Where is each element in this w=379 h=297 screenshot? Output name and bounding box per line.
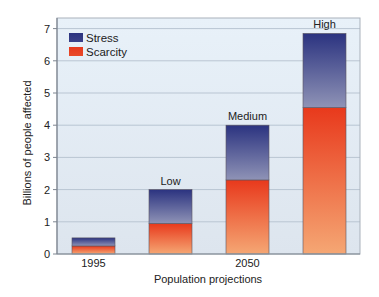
legend-label-scarcity: Scarcity bbox=[86, 46, 127, 58]
bar-scarcity-medium bbox=[226, 180, 269, 254]
legend-label-stress: Stress bbox=[86, 32, 119, 44]
bar-stress-high bbox=[303, 33, 346, 107]
bar-scarcity-low bbox=[149, 223, 192, 254]
x-tick-label: 2050 bbox=[235, 257, 259, 269]
y-tick-label: 1 bbox=[44, 216, 50, 228]
y-axis-ticks: 01234567 bbox=[44, 23, 57, 260]
x-tick-label: 1995 bbox=[81, 257, 105, 269]
x-axis-title: Population projections bbox=[154, 273, 263, 285]
bar-scarcity-high bbox=[303, 107, 346, 254]
y-axis-title: Billions of people affected bbox=[21, 80, 33, 205]
y-tick-label: 0 bbox=[44, 248, 50, 260]
legend-swatch-scarcity bbox=[69, 47, 83, 56]
stacked-bar-chart: LowMediumHigh 01234567 19952050 StressSc… bbox=[0, 0, 379, 297]
bar-label: High bbox=[313, 18, 336, 30]
bar-label: Medium bbox=[228, 110, 267, 122]
bar-label: Low bbox=[160, 175, 180, 187]
x-axis-ticks: 19952050 bbox=[81, 257, 259, 269]
y-tick-label: 5 bbox=[44, 87, 50, 99]
y-tick-label: 4 bbox=[44, 119, 50, 131]
y-tick-label: 2 bbox=[44, 184, 50, 196]
legend-swatch-stress bbox=[69, 33, 83, 42]
bar-stress-low bbox=[149, 190, 192, 224]
y-tick-label: 6 bbox=[44, 55, 50, 67]
y-tick-label: 7 bbox=[44, 23, 50, 35]
bar-stress-medium bbox=[226, 125, 269, 180]
y-tick-label: 3 bbox=[44, 151, 50, 163]
bar-stress-1995 bbox=[72, 238, 115, 246]
bar-scarcity-1995 bbox=[72, 246, 115, 254]
